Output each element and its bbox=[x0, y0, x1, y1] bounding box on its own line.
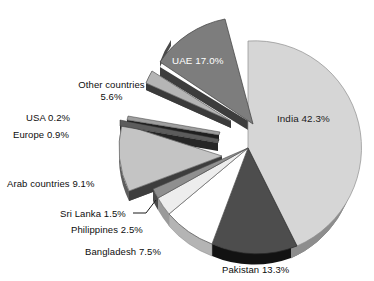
slice-label-other-countries-line2: 5.6% bbox=[50, 91, 173, 103]
slice-label-other-countries-line1: Other countries bbox=[50, 79, 173, 91]
pie-top-layer bbox=[119, 19, 361, 254]
slice-label-philippines: Philippines 2.5% bbox=[71, 224, 143, 236]
slice-label-uae: UAE 17.0% bbox=[172, 55, 224, 67]
slice-label-sri-lanka: Sri Lanka 1.5% bbox=[60, 208, 126, 220]
leader-line-srilanka bbox=[133, 200, 156, 213]
slice-label-india: India 42.3% bbox=[277, 113, 330, 125]
pie-chart-figure: UAE 17.0% India 42.3% Other countries 5.… bbox=[0, 0, 374, 281]
slice-label-bangladesh: Bangladesh 7.5% bbox=[85, 246, 161, 258]
leader-lines bbox=[133, 200, 156, 213]
slice-label-pakistan: Pakistan 13.3% bbox=[222, 264, 289, 276]
slice-label-europe: Europe 0.9% bbox=[13, 129, 69, 141]
slice-label-arab-countries: Arab countries 9.1% bbox=[7, 178, 94, 190]
pie-chart-svg bbox=[0, 0, 374, 281]
slice-label-usa: USA 0.2% bbox=[26, 112, 70, 124]
